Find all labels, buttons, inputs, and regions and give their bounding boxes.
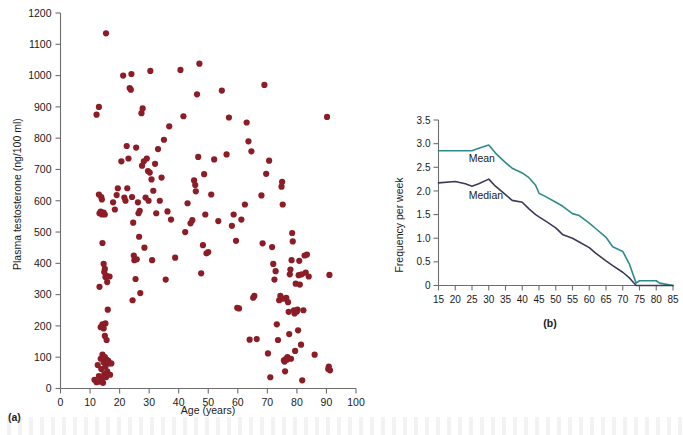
scatter-y-axis-title: Plasma testosterone (ng/100 ml) xyxy=(11,118,23,270)
scatter-point xyxy=(147,68,153,74)
line-x-tick-label: 70 xyxy=(617,294,629,305)
scatter-point xyxy=(261,82,267,88)
line-y-tick-label: 1.5 xyxy=(417,209,431,220)
scatter-point xyxy=(267,374,273,380)
scatter-point xyxy=(93,112,99,118)
scatter-point xyxy=(124,185,130,191)
line-x-tick-label: 40 xyxy=(517,294,529,305)
scatter-y-tick-label: 800 xyxy=(34,132,52,144)
scatter-point xyxy=(110,199,116,205)
scatter-point xyxy=(158,174,164,180)
scatter-point xyxy=(180,113,186,119)
scatter-point xyxy=(103,30,109,36)
scatter-point xyxy=(292,348,298,354)
scatter-point xyxy=(231,211,237,217)
scatter-point xyxy=(289,230,295,236)
scatter-point xyxy=(130,297,136,303)
line-x-tick-label: 15 xyxy=(433,294,445,305)
scatter-point xyxy=(149,257,155,263)
scatter-y-tick-label: 100 xyxy=(34,351,52,363)
scatter-point xyxy=(297,282,303,288)
scatter-point xyxy=(290,238,296,244)
scatter-point xyxy=(106,273,112,279)
series-label-mean: Mean xyxy=(469,152,495,164)
scatter-point xyxy=(202,211,208,217)
line-y-tick-label: 1.0 xyxy=(417,233,431,244)
scatter-point xyxy=(296,258,302,264)
scatter-point xyxy=(263,171,269,177)
figure-container: Plasma testosterone (ng/100 ml) 01002003… xyxy=(0,0,683,435)
scatter-point xyxy=(304,251,310,257)
scatter-point xyxy=(137,290,143,296)
scatter-point xyxy=(294,307,300,313)
scatter-point xyxy=(285,299,291,305)
scatter-point xyxy=(96,284,102,290)
scatter-point xyxy=(236,305,242,311)
scatter-point xyxy=(193,188,199,194)
scatter-point xyxy=(102,266,108,272)
line-x-tick-label: 50 xyxy=(550,294,562,305)
scatter-point xyxy=(248,148,254,154)
line-x-tick-label: 45 xyxy=(533,294,545,305)
scatter-point xyxy=(219,88,225,94)
scatter-point xyxy=(192,182,198,188)
scatter-point xyxy=(107,372,113,378)
scatter-point xyxy=(135,199,141,205)
scatter-point xyxy=(273,268,279,274)
scatter-point xyxy=(136,234,142,240)
scatter-point xyxy=(201,171,207,177)
scatter-point xyxy=(327,367,333,373)
scatter-point xyxy=(166,123,172,129)
scatter-chart-svg: Plasma testosterone (ng/100 ml) 01002003… xyxy=(0,0,380,435)
panel-a-scatter: Plasma testosterone (ng/100 ml) 01002003… xyxy=(0,0,380,435)
scatter-point xyxy=(196,61,202,67)
scatter-x-tick-label: 70 xyxy=(262,396,274,408)
scatter-point xyxy=(163,277,169,283)
scatter-point xyxy=(132,276,138,282)
scatter-point xyxy=(280,201,286,207)
scatter-point xyxy=(242,201,248,207)
scatter-y-tick-label: 1100 xyxy=(29,38,52,50)
scatter-point xyxy=(282,368,288,374)
scatter-point xyxy=(260,240,266,246)
scatter-point xyxy=(128,71,134,77)
scatter-point xyxy=(100,380,106,386)
scatter-point xyxy=(265,350,271,356)
panel-b-lines: Frequency per week 00.51.01.52.02.53.03.… xyxy=(390,100,683,345)
line-y-tick-group: 00.51.01.52.02.53.03.5 xyxy=(417,115,439,292)
scatter-point xyxy=(286,331,292,337)
scatter-point xyxy=(114,192,120,198)
scatter-point xyxy=(108,360,114,366)
scatter-point xyxy=(147,169,153,175)
scatter-point xyxy=(286,309,292,315)
line-y-tick-label: 0 xyxy=(425,280,431,291)
scatter-x-tick-label: 10 xyxy=(84,396,96,408)
scatter-point xyxy=(99,196,105,202)
scatter-point xyxy=(200,242,206,248)
scatter-point xyxy=(124,143,130,149)
scatter-point xyxy=(102,211,108,217)
scatter-point xyxy=(205,249,211,255)
scatter-point xyxy=(287,266,293,272)
scatter-point xyxy=(295,327,301,333)
scatter-point xyxy=(223,151,229,157)
line-annotation-group: MeanMedian xyxy=(469,152,504,202)
scatter-point xyxy=(133,144,139,150)
scatter-x-tick-label: 100 xyxy=(347,396,365,408)
line-x-tick-label: 30 xyxy=(483,294,495,305)
line-x-tick-label: 35 xyxy=(500,294,512,305)
scatter-point xyxy=(144,155,150,161)
scatter-point xyxy=(177,67,183,73)
scatter-point xyxy=(300,307,306,313)
line-y-tick-label: 2.5 xyxy=(417,162,431,173)
scatter-point xyxy=(148,176,154,182)
scatter-point xyxy=(164,208,170,214)
scatter-point xyxy=(182,229,188,235)
series-label-median: Median xyxy=(469,189,504,201)
scatter-point xyxy=(258,192,264,198)
scatter-point xyxy=(195,154,201,160)
scatter-point xyxy=(161,137,167,143)
scatter-point xyxy=(153,210,159,216)
scatter-point xyxy=(104,279,110,285)
line-y-tick-label: 0.5 xyxy=(417,256,431,267)
